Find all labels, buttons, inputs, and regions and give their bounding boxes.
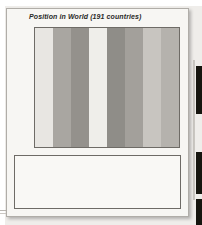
category-band xyxy=(71,28,89,147)
category-band xyxy=(107,28,125,147)
page-bleed-mark-top xyxy=(196,66,202,114)
category-band xyxy=(89,28,107,147)
category-band xyxy=(35,28,53,147)
page-bleed-mark-bottom xyxy=(196,199,202,225)
scanned-page: Position in World (191 countries) xyxy=(0,0,202,225)
chart-figure: Position in World (191 countries) xyxy=(6,8,189,217)
chart-legend xyxy=(14,155,181,209)
plot-area xyxy=(34,27,180,148)
category-band xyxy=(53,28,71,147)
category-band xyxy=(143,28,161,147)
page-edge-left xyxy=(0,0,5,225)
category-band xyxy=(161,28,179,147)
page-bleed-mark-middle xyxy=(196,152,202,194)
category-band xyxy=(125,28,143,147)
chart-title: Position in World (191 countries) xyxy=(29,13,141,20)
page-edge-top xyxy=(0,0,202,6)
page-gutter-line xyxy=(193,60,195,200)
